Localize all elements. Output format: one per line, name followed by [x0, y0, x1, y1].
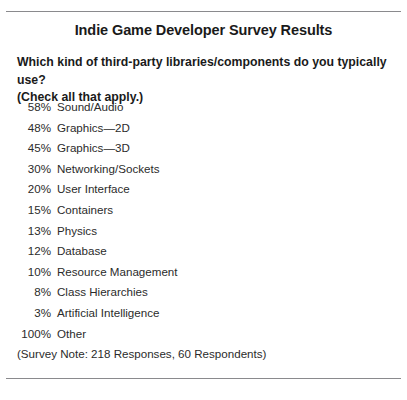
page-title: Indie Game Developer Survey Results [0, 22, 407, 38]
result-percentage: 12% [0, 244, 51, 257]
survey-results-list: 58%Sound/Audio48%Graphics—2D45%Graphics—… [0, 100, 407, 347]
list-item: 45%Graphics—3D [0, 141, 407, 162]
list-item: 3%Artificial Intelligence [0, 306, 407, 327]
list-item: 10%Resource Management [0, 265, 407, 286]
result-label: Graphics—3D [51, 141, 130, 154]
result-percentage: 10% [0, 265, 51, 278]
result-percentage: 8% [0, 285, 51, 298]
list-item: 13%Physics [0, 224, 407, 245]
list-item: 30%Networking/Sockets [0, 162, 407, 183]
result-label: Resource Management [51, 265, 178, 278]
list-item: 48%Graphics—2D [0, 121, 407, 142]
result-label: Containers [51, 203, 113, 216]
result-label: User Interface [51, 182, 130, 195]
result-percentage: 13% [0, 224, 51, 237]
bottom-divider-rule [6, 378, 401, 379]
list-item: 8%Class Hierarchies [0, 285, 407, 306]
top-divider-rule [6, 11, 401, 12]
result-percentage: 15% [0, 203, 51, 216]
result-label: Other [51, 327, 86, 340]
result-label: Sound/Audio [51, 100, 123, 113]
list-item: 58%Sound/Audio [0, 100, 407, 121]
list-item: 20%User Interface [0, 182, 407, 203]
result-percentage: 100% [0, 327, 51, 340]
result-percentage: 3% [0, 306, 51, 319]
list-item: 15%Containers [0, 203, 407, 224]
result-label: Graphics—2D [51, 121, 130, 134]
survey-question-line-1: Which kind of third-party libraries/comp… [17, 55, 387, 87]
survey-footnote: (Survey Note: 218 Responses, 60 Responde… [17, 347, 266, 360]
result-label: Class Hierarchies [51, 285, 148, 298]
list-item: 100%Other [0, 327, 407, 348]
result-label: Database [51, 244, 107, 257]
result-percentage: 30% [0, 162, 51, 175]
result-percentage: 58% [0, 100, 51, 113]
list-item: 12%Database [0, 244, 407, 265]
survey-question: Which kind of third-party libraries/comp… [17, 54, 395, 107]
result-percentage: 45% [0, 141, 51, 154]
result-percentage: 48% [0, 121, 51, 134]
result-label: Physics [51, 224, 97, 237]
result-label: Networking/Sockets [51, 162, 159, 175]
result-label: Artificial Intelligence [51, 306, 159, 319]
survey-results-card: Indie Game Developer Survey Results Whic… [0, 0, 407, 400]
result-percentage: 20% [0, 182, 51, 195]
